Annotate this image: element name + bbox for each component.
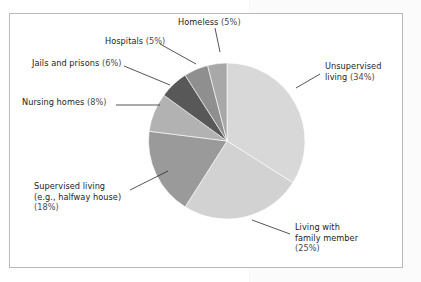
pie-label-hospitals-text: Hospitals xyxy=(105,36,146,46)
pie-label-living-with-family-member: Living with family member (25%) xyxy=(295,222,358,254)
pie-label-living-with-family-member-line1: Living with xyxy=(295,222,358,233)
pie-label-nursing-homes-text: Nursing homes xyxy=(22,97,87,107)
pie-label-nursing-homes: Nursing homes (8%) xyxy=(22,97,107,108)
figure-page: Homeless (5%) Hospitals (5%) Jails and p… xyxy=(0,0,421,282)
pie-label-jails-and-prisons-percent: (6%) xyxy=(102,58,122,68)
pie-label-nursing-homes-percent: (8%) xyxy=(87,97,107,107)
leader-line-hospitals xyxy=(160,44,196,64)
pie-label-jails-and-prisons: Jails and prisons (6%) xyxy=(32,58,122,69)
pie-label-living-with-family-member-line2: family member xyxy=(295,233,358,244)
pie-label-homeless: Homeless (5%) xyxy=(178,17,241,28)
pie-label-supervised-living-line1: Supervised living xyxy=(34,181,121,192)
pie-label-supervised-living-percent: (18%) xyxy=(34,202,121,213)
leader-line-homeless xyxy=(215,28,220,52)
pie-label-hospitals: Hospitals (5%) xyxy=(105,36,165,47)
pie-label-homeless-text: Homeless xyxy=(178,17,221,27)
leader-line-jails xyxy=(124,66,170,85)
pie-label-unsupervised-living: Unsupervised living (34%) xyxy=(325,61,381,82)
pie-label-homeless-percent: (5%) xyxy=(221,17,241,27)
pie-label-unsupervised-living-line2: living (34%) xyxy=(325,72,381,83)
pie-label-supervised-living-line2: (e.g., halfway house) xyxy=(34,192,121,203)
pie-label-unsupervised-living-percent: (34%) xyxy=(350,72,375,82)
pie-label-unsupervised-living-line1: Unsupervised xyxy=(325,61,381,72)
pie-label-unsupervised-living-line2-text: living xyxy=(325,72,350,82)
leader-line-unsupervised-living xyxy=(296,74,320,88)
pie-label-living-with-family-member-percent: (25%) xyxy=(295,243,358,254)
pie-label-supervised-living: Supervised living (e.g., halfway house) … xyxy=(34,181,121,213)
pie-label-jails-and-prisons-text: Jails and prisons xyxy=(32,58,102,68)
leader-line-living-with-family xyxy=(252,220,290,234)
pie-label-hospitals-percent: (5%) xyxy=(146,36,166,46)
